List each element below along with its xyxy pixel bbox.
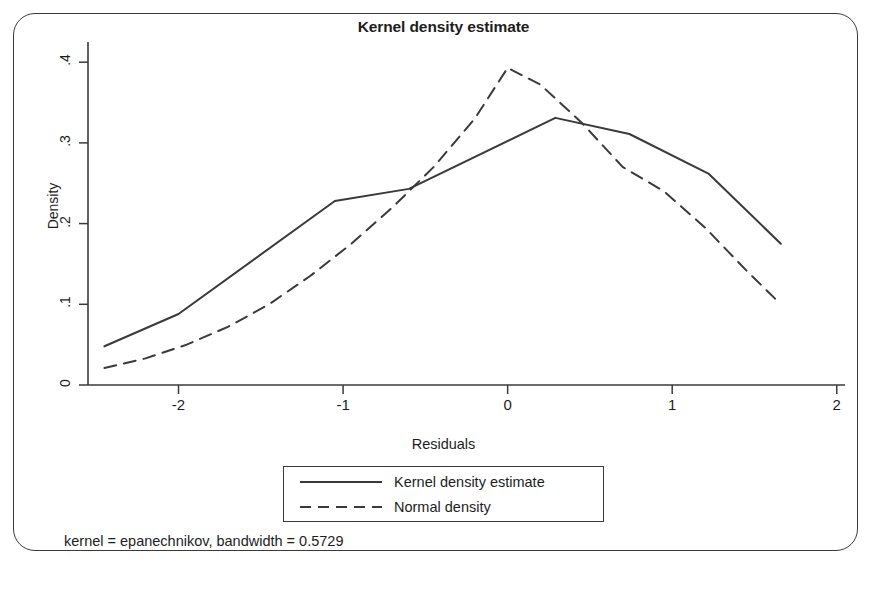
footnote-text: kernel = epanechnikov, bandwidth = 0.572… [64, 533, 343, 549]
kernel-density-figure: Kernel density estimate Density 0.1.2.3.… [0, 0, 887, 598]
y-tick-label: .3 [57, 121, 73, 161]
series-line-normal-density [104, 68, 777, 368]
legend-label-normal-density: Normal density [394, 499, 491, 515]
x-tick-label: 0 [488, 396, 528, 413]
data-series-layer [104, 68, 780, 368]
series-line-kernel-density-estimate [104, 118, 780, 346]
x-axis-title: Residuals [0, 436, 887, 452]
legend: Kernel density estimate Normal density [283, 466, 604, 522]
y-axis-ticks [79, 62, 88, 385]
y-tick-label: .1 [57, 282, 73, 322]
legend-label-kernel-density-estimate: Kernel density estimate [394, 474, 545, 490]
legend-key-solid-line [298, 477, 384, 487]
y-tick-label: .4 [57, 40, 73, 80]
x-tick-label: -1 [323, 396, 363, 413]
x-tick-label: 2 [817, 396, 857, 413]
y-tick-label: .2 [57, 202, 73, 242]
x-axis-ticks [179, 385, 837, 394]
legend-key-dashed-line [298, 502, 384, 512]
x-tick-label: -2 [159, 396, 199, 413]
x-tick-label: 1 [652, 396, 692, 413]
y-tick-label: 0 [57, 363, 73, 403]
legend-entry-kernel-density-estimate: Kernel density estimate [284, 469, 545, 495]
legend-entry-normal-density: Normal density [284, 494, 491, 520]
